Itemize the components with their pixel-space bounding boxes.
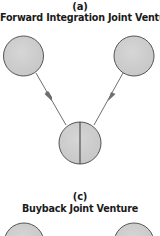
partner-node-right: [114, 223, 154, 236]
section-a-diagram: [4, 36, 155, 164]
section-c-diagram: [4, 223, 154, 236]
edge-right-to-venture: [94, 73, 123, 125]
edge-left-to-venture: [36, 73, 66, 125]
partner-node-left: [4, 36, 44, 76]
partner-node-left: [4, 223, 44, 236]
arrowhead-icon: [108, 92, 116, 101]
partner-node-right: [114, 36, 154, 76]
joint-venture-node: [59, 122, 101, 164]
section-c-title: Buyback Joint Venture: [0, 203, 160, 215]
section-c-letter: (c): [0, 191, 160, 202]
